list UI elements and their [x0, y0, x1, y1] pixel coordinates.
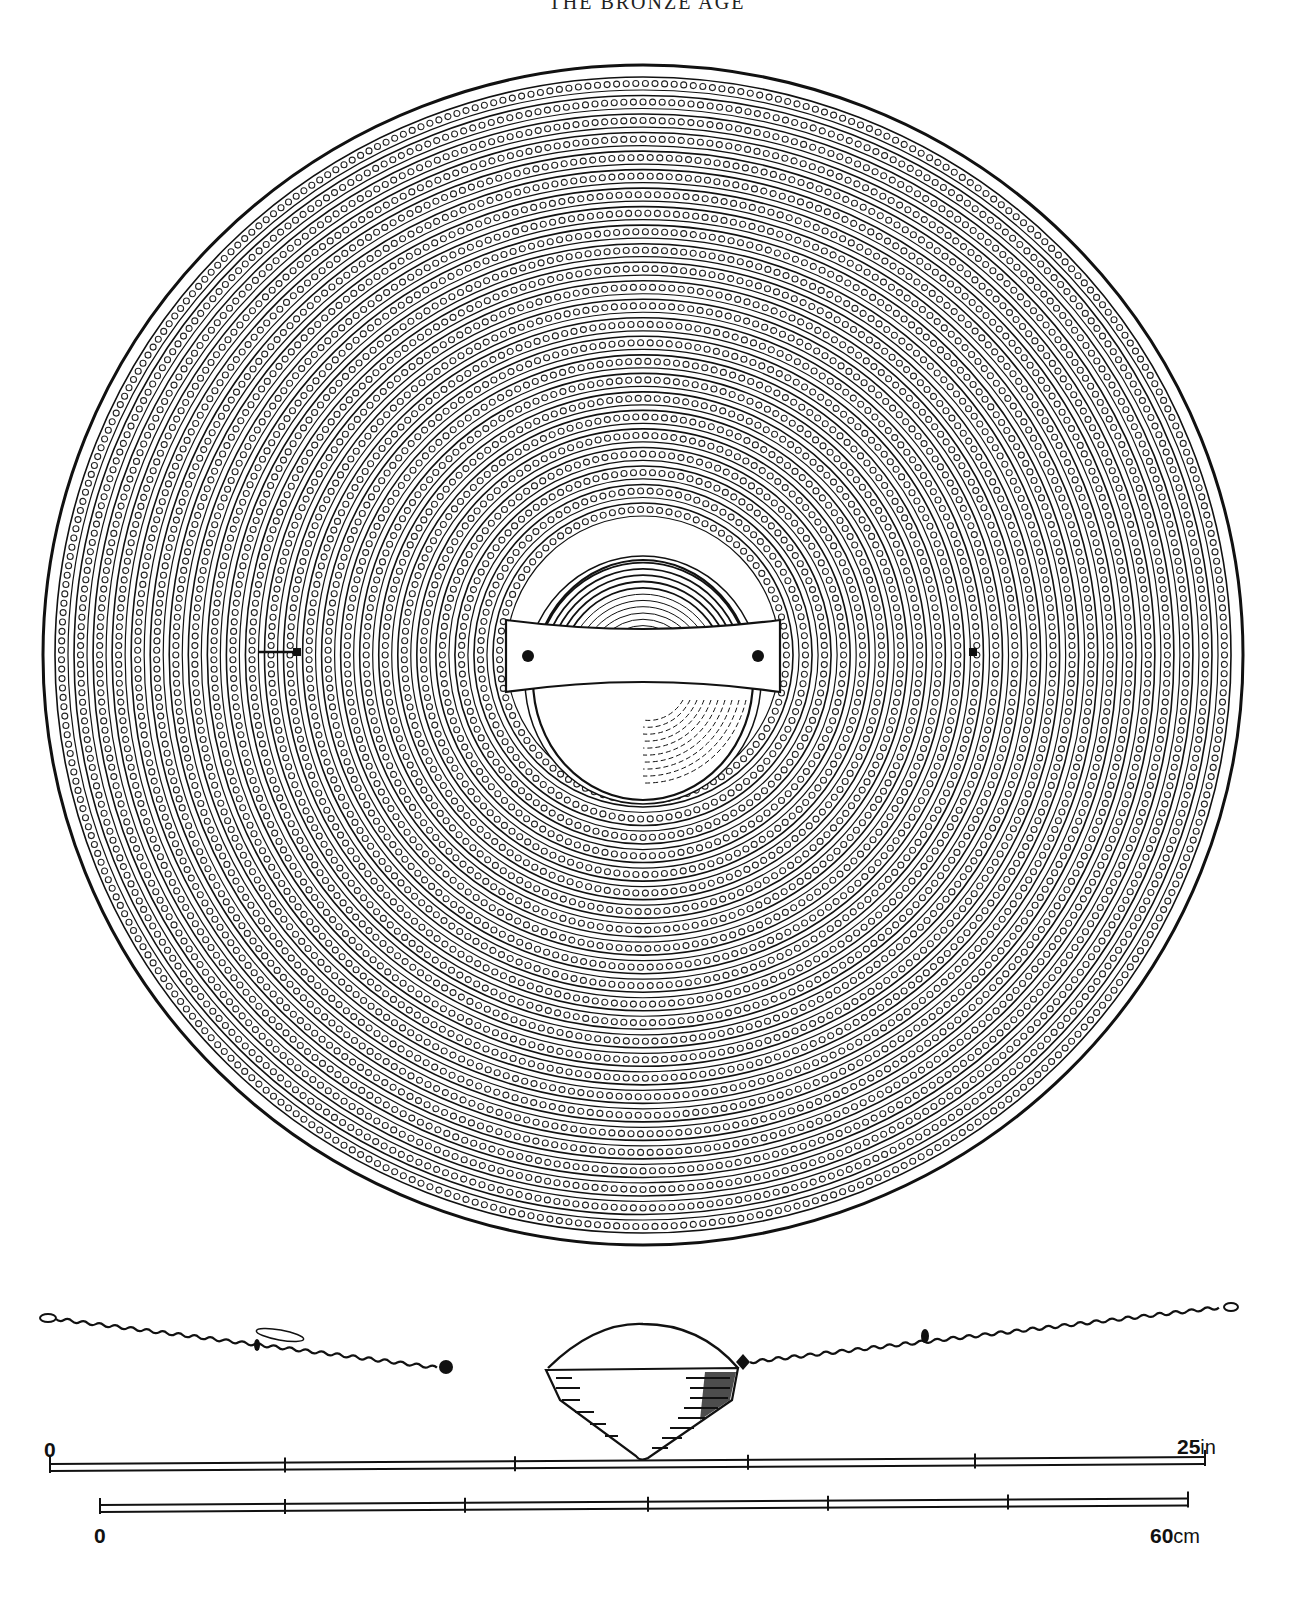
rim-loop-right-icon — [1224, 1303, 1238, 1311]
unit-in: in — [1200, 1436, 1216, 1458]
handle-rivet-left-icon — [522, 650, 534, 662]
strap-fitting-right-icon — [969, 648, 977, 656]
scale-in-start-label: 0 — [44, 1438, 56, 1462]
shield-plan-view — [43, 65, 1243, 1245]
scale-bar-centimetres — [100, 1491, 1188, 1514]
rim-wire-right — [750, 1307, 1219, 1363]
handle-grip — [506, 620, 780, 692]
scale-cm-end-label: 60cm — [1150, 1524, 1200, 1548]
handle-rivet-right-icon — [752, 650, 764, 662]
shield-side-profile — [40, 1303, 1238, 1460]
rim-loop-left-icon — [40, 1314, 56, 1322]
rivet-boss-left-icon — [439, 1360, 453, 1374]
strap-fitting-left-icon — [293, 648, 301, 656]
scale-in-end-label: 25in — [1177, 1435, 1216, 1459]
unit-cm: cm — [1173, 1525, 1200, 1547]
rim-wire-left — [56, 1319, 437, 1368]
strap-loop-icon — [255, 1326, 304, 1344]
boss-dome — [548, 1324, 738, 1368]
rivet-left-icon — [254, 1339, 260, 1351]
shield-figure — [0, 0, 1294, 1613]
scale-bar-inches — [50, 1450, 1205, 1473]
scale-cm-start-label: 0 — [94, 1524, 106, 1548]
rivet-right-icon — [921, 1329, 929, 1343]
